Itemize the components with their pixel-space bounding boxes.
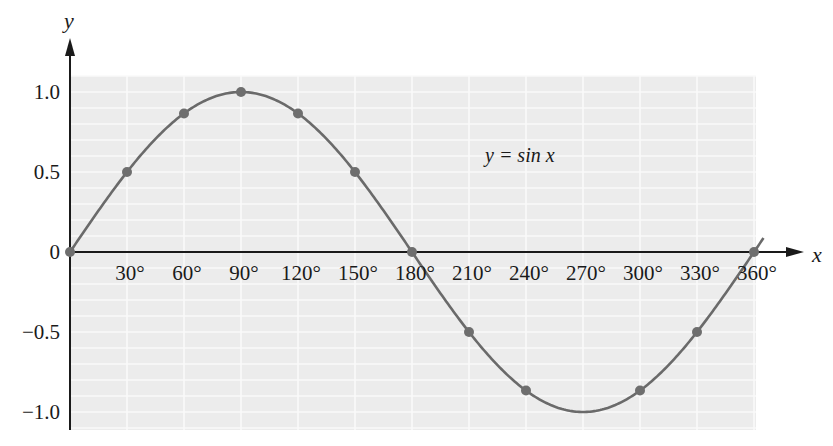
y-tick-label: −1.0 — [22, 400, 60, 424]
x-tick-label: 90° — [229, 261, 258, 285]
data-point — [236, 87, 246, 97]
x-tick-label: 330° — [680, 261, 720, 285]
data-point — [179, 108, 189, 118]
data-point — [350, 167, 360, 177]
x-tick-label: 300° — [623, 261, 663, 285]
data-point — [122, 167, 132, 177]
data-point — [749, 247, 759, 257]
y-tick-label: 0 — [50, 240, 61, 264]
data-point — [635, 386, 645, 396]
function-annotation: y = sin x — [483, 144, 555, 167]
x-tick-label: 30° — [115, 261, 144, 285]
y-tick-label: 0.5 — [34, 160, 60, 184]
data-point — [407, 247, 417, 257]
data-point — [65, 247, 75, 257]
x-tick-label: 60° — [172, 261, 201, 285]
y-tick-labels: 1.00.50−0.5−1.0 — [22, 80, 60, 424]
x-tick-label: 270° — [566, 261, 606, 285]
data-point — [521, 386, 531, 396]
x-tick-label: 180° — [395, 261, 435, 285]
x-tick-label: 150° — [338, 261, 378, 285]
x-tick-label: 360° — [737, 261, 777, 285]
data-point — [464, 327, 474, 337]
y-tick-label: −0.5 — [22, 320, 60, 344]
x-tick-label: 240° — [509, 261, 549, 285]
y-axis-label: y — [62, 8, 74, 33]
y-tick-label: 1.0 — [34, 80, 60, 104]
data-point — [692, 327, 702, 337]
x-axis-arrow-icon — [786, 247, 804, 257]
x-tick-label: 120° — [281, 261, 321, 285]
x-axis-label: x — [811, 242, 822, 267]
sine-chart: 1.00.50−0.5−1.0 30°60°90°120°150°180°210… — [0, 0, 833, 446]
y-axis-arrow-icon — [65, 38, 75, 56]
x-tick-label: 210° — [452, 261, 492, 285]
data-point — [293, 108, 303, 118]
